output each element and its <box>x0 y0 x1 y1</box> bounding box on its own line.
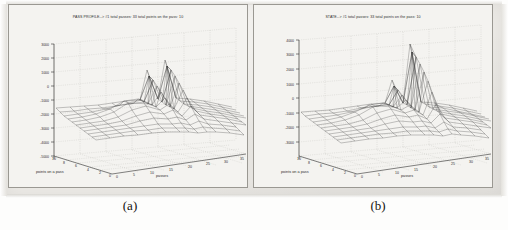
svg-text:4: 4 <box>332 168 334 172</box>
svg-text:3000: 3000 <box>286 53 294 57</box>
surface-plot-right: 4000 3000 2000 1000 0 -1000 -2000 -3000 … <box>253 4 493 188</box>
plot-panel-left: PASS PROFILE--> #1 total passes: 33 tota… <box>8 4 248 188</box>
z-axis-left: 3000 2000 1000 0 -1000 -2000 -3000 -4000… <box>40 43 54 160</box>
mesh-surface-left <box>56 60 246 140</box>
svg-text:4000: 4000 <box>286 39 294 43</box>
svg-text:10: 10 <box>395 171 399 175</box>
svg-text:-1000: -1000 <box>40 99 49 103</box>
svg-text:30: 30 <box>469 160 473 164</box>
svg-text:15: 15 <box>169 168 173 172</box>
grid-walls-right <box>299 25 491 174</box>
svg-text:10: 10 <box>297 157 301 161</box>
svg-text:1000: 1000 <box>41 71 49 75</box>
svg-text:2000: 2000 <box>286 68 294 72</box>
y-axis-left: 0 5 10 15 20 25 30 35 <box>112 154 246 179</box>
svg-text:0: 0 <box>361 175 363 179</box>
svg-text:0: 0 <box>109 174 111 178</box>
plot-panel-right: STATE--> #1 total passes: 33 total point… <box>253 4 493 188</box>
svg-text:20: 20 <box>188 165 192 169</box>
svg-text:-3000: -3000 <box>285 141 294 145</box>
x-axis-label-left: points on a pass <box>36 170 64 174</box>
svg-text:15: 15 <box>414 168 418 172</box>
svg-text:25: 25 <box>206 162 210 166</box>
z-axis-right: 4000 3000 2000 1000 0 -1000 -2000 -3000 <box>285 39 299 160</box>
surface-plot-left: 3000 2000 1000 0 -1000 -2000 -3000 -4000… <box>8 4 248 188</box>
svg-text:-2000: -2000 <box>40 113 49 117</box>
x-axis-left: 10 8 6 4 2 0 <box>52 156 112 178</box>
y-axis-label-left: passes <box>156 174 168 178</box>
sheet-edge-right <box>501 4 508 196</box>
svg-text:35: 35 <box>485 157 489 161</box>
svg-text:-4000: -4000 <box>40 141 49 145</box>
x-axis-right: 10 8 6 4 2 0 <box>297 156 357 178</box>
y-axis-right: 0 5 10 15 20 25 30 35 <box>357 154 491 179</box>
svg-text:4: 4 <box>87 168 89 172</box>
svg-text:35: 35 <box>240 157 244 161</box>
svg-text:-2000: -2000 <box>285 126 294 130</box>
mesh-surface-right <box>301 44 491 143</box>
svg-text:30: 30 <box>224 160 228 164</box>
svg-text:-3000: -3000 <box>40 127 49 131</box>
caption-b: (b) <box>318 198 438 214</box>
svg-text:-5000: -5000 <box>40 155 49 159</box>
grid-walls-left <box>54 28 246 174</box>
svg-text:25: 25 <box>451 162 455 166</box>
svg-text:10: 10 <box>52 157 56 161</box>
caption-a: (a) <box>70 198 190 214</box>
figure-captions: (a) (b) <box>0 198 508 226</box>
svg-text:8: 8 <box>308 161 310 165</box>
svg-text:2000: 2000 <box>41 57 49 61</box>
y-axis-label-right: passes <box>401 174 413 178</box>
svg-text:20: 20 <box>433 165 437 169</box>
figure-page: PASS PROFILE--> #1 total passes: 33 tota… <box>0 0 508 230</box>
svg-text:2: 2 <box>344 171 346 175</box>
svg-text:1000: 1000 <box>286 83 294 87</box>
svg-text:0: 0 <box>292 97 294 101</box>
svg-text:0: 0 <box>116 175 118 179</box>
svg-text:5: 5 <box>133 173 135 177</box>
svg-text:3000: 3000 <box>41 43 49 47</box>
sheet-edge-left <box>0 4 7 196</box>
svg-text:0: 0 <box>354 174 356 178</box>
svg-text:6: 6 <box>75 164 77 168</box>
svg-text:8: 8 <box>63 161 65 165</box>
x-axis-label-right: points on a pass <box>281 170 309 174</box>
svg-text:6: 6 <box>320 164 322 168</box>
svg-text:-1000: -1000 <box>285 112 294 116</box>
svg-text:0: 0 <box>47 85 49 89</box>
svg-text:2: 2 <box>99 171 101 175</box>
svg-text:10: 10 <box>150 171 154 175</box>
svg-text:5: 5 <box>378 173 380 177</box>
